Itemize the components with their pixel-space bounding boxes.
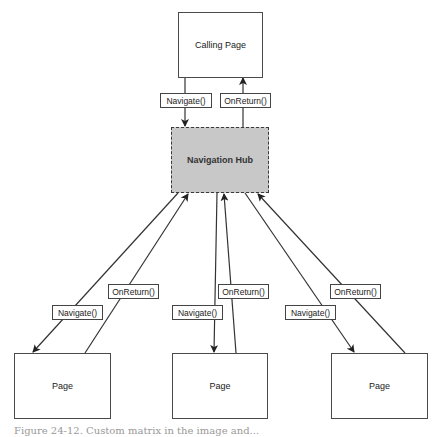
right-onreturn-text: OnReturn()	[334, 287, 377, 297]
middle-onreturn-text: OnReturn()	[222, 287, 265, 297]
top-navigate-label: Navigate()	[160, 93, 212, 108]
calling-page-label: Calling Page	[195, 40, 246, 50]
middle-navigate-text: Navigate()	[178, 308, 217, 318]
figure-caption: Figure 24-12. Custom matrix in the image…	[14, 425, 259, 436]
left-navigate-text: Navigate()	[58, 308, 97, 318]
navigation-hub-box: Navigation Hub	[171, 127, 269, 193]
top-navigate-text: Navigate()	[166, 96, 205, 106]
right-navigate-label: Navigate()	[285, 305, 336, 320]
top-onreturn-text: OnReturn()	[224, 96, 267, 106]
middle-navigate-label: Navigate()	[172, 305, 223, 320]
page-box-right: Page	[331, 353, 428, 419]
calling-page-box: Calling Page	[178, 12, 263, 78]
top-onreturn-label: OnReturn()	[220, 93, 271, 108]
left-onreturn-text: OnReturn()	[112, 287, 155, 297]
right-onreturn-label: OnReturn()	[330, 284, 381, 299]
page-label: Page	[369, 381, 390, 391]
page-box-left: Page	[14, 353, 111, 419]
page-box-middle: Page	[172, 353, 268, 419]
middle-onreturn-label: OnReturn()	[218, 284, 269, 299]
navigation-hub-label: Navigation Hub	[187, 155, 253, 165]
left-onreturn-label: OnReturn()	[108, 284, 159, 299]
page-label: Page	[52, 381, 73, 391]
navigation-hub-diagram: Calling Page Navigate() OnReturn() Navig…	[0, 0, 443, 437]
right-navigate-text: Navigate()	[291, 308, 330, 318]
page-label: Page	[209, 381, 230, 391]
left-navigate-label: Navigate()	[52, 305, 103, 320]
